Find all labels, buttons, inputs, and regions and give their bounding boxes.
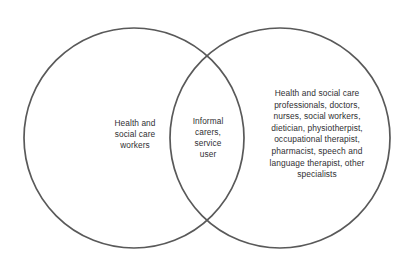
venn-diagram: Health and social care workers Informal … (0, 0, 412, 265)
venn-label-right: Health and social care professionals, do… (246, 88, 388, 181)
venn-label-intersection: Informal carers, service user (179, 116, 237, 160)
